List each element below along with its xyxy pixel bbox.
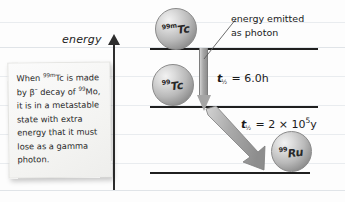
energy-axis-line [113, 42, 115, 190]
nuclide-sphere-tc99m: 99mTc [155, 8, 197, 50]
halflife-unit: h [262, 72, 269, 85]
photon-emission-callout: energy emitted as photon [231, 12, 304, 40]
energy-axis-label: energy [62, 33, 102, 46]
sticky-note-segment: When [16, 73, 43, 83]
halflife-subscript: ½ [245, 125, 251, 131]
sticky-note-segment: decay of [38, 87, 79, 97]
callout-line-2: as photon [231, 26, 304, 40]
callout-line-1: energy emitted [231, 12, 304, 26]
halflife-label-gamma: t½ = 6.0h [217, 72, 269, 85]
nuclide-label: 99Ru [278, 142, 304, 161]
halflife-unit: y [310, 118, 317, 131]
halflife-value: 6.0 [244, 72, 262, 85]
nuclide-mass-number: 99m [161, 22, 177, 32]
halflife-subscript: ½ [221, 79, 227, 85]
sticky-note-segment: Mo, it is in a metastable state with ext… [17, 86, 101, 164]
nuclide-sphere-tc99: 99Tc [152, 64, 194, 106]
nuclide-label: 99Tc [161, 76, 184, 94]
nuclide-symbol: Tc [177, 22, 191, 36]
nuclide-symbol: Ru [287, 145, 304, 160]
background-rule-line [0, 190, 345, 191]
nuclide-sphere-ru99: 99Ru [271, 131, 312, 172]
halflife-value: 2 × 10 [268, 118, 305, 131]
halflife-equals: = [256, 118, 265, 131]
halflife-label-beta: t½ = 2 × 105y [241, 116, 317, 131]
sticky-note-superscript: 99 [78, 86, 85, 92]
nuclide-symbol: Tc [170, 79, 184, 93]
sticky-note-superscript: 99m [43, 72, 56, 78]
decay-scheme-figure: energy energy emitted as photon [0, 0, 345, 202]
sticky-note: When 99mTc is made by β– decay of 99Mo, … [7, 61, 111, 178]
halflife-equals: = [232, 72, 241, 85]
nuclide-label: 99mTc [161, 19, 191, 38]
sticky-note-text: When 99mTc is made by β– decay of 99Mo, … [16, 70, 103, 167]
